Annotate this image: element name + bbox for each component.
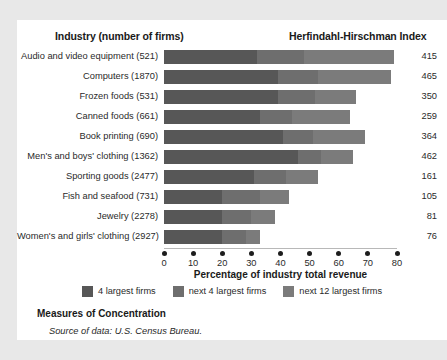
industry-label: Men's and boys' clothing (1362) bbox=[17, 151, 158, 161]
tick-label: 70 bbox=[356, 258, 380, 268]
industry-label: Book printing (690) bbox=[17, 131, 158, 141]
tick-label: 20 bbox=[210, 258, 234, 268]
tick-dot-icon bbox=[336, 251, 341, 256]
industry-label: Jewelry (2278) bbox=[17, 211, 158, 221]
bar-segment bbox=[278, 70, 319, 84]
table-row: Canned foods (661)259 bbox=[17, 108, 447, 128]
hhi-column-header: Herfindahl-Hirschman Index bbox=[289, 30, 426, 42]
industry-label: Canned foods (661) bbox=[17, 111, 158, 121]
hhi-value: 462 bbox=[403, 151, 437, 161]
hhi-value: 81 bbox=[403, 211, 437, 221]
hhi-value: 465 bbox=[403, 71, 437, 81]
hhi-value: 105 bbox=[403, 191, 437, 201]
industry-label: Fish and seafood (731) bbox=[17, 191, 158, 201]
bar-segment bbox=[318, 70, 391, 84]
table-row: Book printing (690)364 bbox=[17, 128, 447, 148]
bar-segment bbox=[260, 110, 292, 124]
legend-label: next 4 largest firms bbox=[189, 286, 267, 296]
stacked-bar bbox=[164, 70, 391, 84]
tick-label: 60 bbox=[327, 258, 351, 268]
tick-dot-icon bbox=[162, 251, 167, 256]
table-row: Computers (1870)465 bbox=[17, 68, 447, 88]
tick-label: 10 bbox=[181, 258, 205, 268]
bar-segment bbox=[304, 50, 394, 64]
hhi-value: 350 bbox=[403, 91, 437, 101]
table-row: Sporting goods (2477)161 bbox=[17, 168, 447, 188]
bar-segment bbox=[164, 110, 260, 124]
bar-segment bbox=[254, 170, 286, 184]
hhi-value: 161 bbox=[403, 171, 437, 181]
table-row: Jewelry (2278)81 bbox=[17, 208, 447, 228]
bar-segment bbox=[246, 230, 261, 244]
chart-card: Industry (number of firms) Herfindahl-Hi… bbox=[17, 20, 447, 340]
tick-label: 0 bbox=[152, 258, 176, 268]
bar-segment bbox=[164, 190, 222, 204]
tick-dot-icon bbox=[191, 251, 196, 256]
figure-title: Measures of Concentration bbox=[37, 308, 166, 319]
bar-segment bbox=[278, 90, 316, 104]
tick-dot-icon bbox=[307, 251, 312, 256]
tick-dot-icon bbox=[395, 251, 400, 256]
legend-label: 4 largest firms bbox=[98, 286, 156, 296]
stacked-bar bbox=[164, 190, 289, 204]
stacked-bar bbox=[164, 210, 275, 224]
stacked-bar bbox=[164, 110, 350, 124]
hhi-value: 259 bbox=[403, 111, 437, 121]
bar-segment bbox=[260, 190, 289, 204]
industry-label: Women's and girls' clothing (2927) bbox=[17, 231, 158, 241]
bar-segment bbox=[164, 150, 298, 164]
bar-segment bbox=[164, 130, 283, 144]
x-axis: Percentage of industry total revenue 010… bbox=[17, 248, 447, 282]
bar-chart-plot: Audio and video equipment (521)415Comput… bbox=[17, 48, 447, 248]
bar-segment bbox=[292, 110, 350, 124]
bar-segment bbox=[286, 170, 318, 184]
legend-swatch bbox=[82, 286, 93, 297]
bar-segment bbox=[164, 70, 278, 84]
industry-column-header: Industry (number of firms) bbox=[55, 30, 184, 42]
stacked-bar bbox=[164, 130, 365, 144]
bar-segment bbox=[164, 170, 254, 184]
legend-label: next 12 largest firms bbox=[299, 286, 382, 296]
table-row: Men's and boys' clothing (1362)462 bbox=[17, 148, 447, 168]
hhi-value: 76 bbox=[403, 231, 437, 241]
bar-segment bbox=[222, 230, 245, 244]
bar-segment bbox=[283, 130, 312, 144]
table-row: Women's and girls' clothing (2927)76 bbox=[17, 228, 447, 248]
chart-legend: 4 largest firmsnext 4 largest firmsnext … bbox=[17, 283, 447, 299]
bar-segment bbox=[298, 150, 321, 164]
bar-segment bbox=[164, 50, 257, 64]
bar-segment bbox=[313, 130, 365, 144]
source-note: Source of data: U.S. Census Bureau. bbox=[49, 326, 202, 336]
tick-dot-icon bbox=[278, 251, 283, 256]
table-row: Audio and video equipment (521)415 bbox=[17, 48, 447, 68]
bar-segment bbox=[164, 230, 222, 244]
stacked-bar bbox=[164, 170, 318, 184]
tick-label: 40 bbox=[269, 258, 293, 268]
x-axis-label: Percentage of industry total revenue bbox=[164, 269, 397, 280]
table-row: Fish and seafood (731)105 bbox=[17, 188, 447, 208]
tick-label: 80 bbox=[385, 258, 409, 268]
bar-segment bbox=[321, 150, 353, 164]
tick-dot-icon bbox=[220, 251, 225, 256]
bar-segment bbox=[257, 50, 304, 64]
stacked-bar bbox=[164, 150, 353, 164]
tick-label: 50 bbox=[298, 258, 322, 268]
legend-swatch bbox=[173, 286, 184, 297]
bar-segment bbox=[222, 190, 260, 204]
industry-label: Sporting goods (2477) bbox=[17, 171, 158, 181]
table-row: Frozen foods (531)350 bbox=[17, 88, 447, 108]
bar-segment bbox=[251, 210, 274, 224]
bar-segment bbox=[164, 90, 278, 104]
tick-dot-icon bbox=[249, 251, 254, 256]
legend-item: next 12 largest firms bbox=[283, 286, 382, 297]
industry-label: Audio and video equipment (521) bbox=[17, 51, 158, 61]
tick-label: 30 bbox=[239, 258, 263, 268]
hhi-value: 415 bbox=[403, 51, 437, 61]
bar-segment bbox=[222, 210, 251, 224]
industry-label: Frozen foods (531) bbox=[17, 91, 158, 101]
legend-item: 4 largest firms bbox=[82, 286, 156, 297]
stacked-bar bbox=[164, 230, 260, 244]
axis-line bbox=[164, 248, 397, 249]
legend-item: next 4 largest firms bbox=[173, 286, 267, 297]
legend-swatch bbox=[283, 286, 294, 297]
